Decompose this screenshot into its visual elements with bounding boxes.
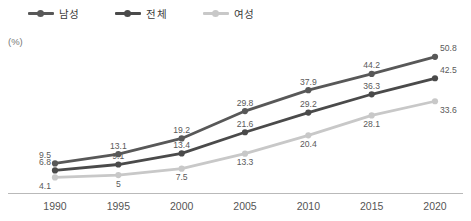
data-point-label: 5 xyxy=(116,179,121,189)
data-point[interactable] xyxy=(369,71,375,77)
data-point-label: 7.5 xyxy=(176,172,188,182)
data-point-label: 19.2 xyxy=(173,125,190,135)
x-axis-tick-1995: 1995 xyxy=(107,200,131,212)
data-point-label: 33.6 xyxy=(440,105,457,115)
data-point[interactable] xyxy=(305,87,311,93)
data-point-label: 13.4 xyxy=(173,140,190,150)
data-point-label: 29.8 xyxy=(237,98,254,108)
data-point-label: 28.1 xyxy=(363,119,380,129)
data-point-label: 42.5 xyxy=(440,65,457,75)
chart-container: 남성 전체 여성 (%) 9.513.119.229.837.944.250.8… xyxy=(0,0,471,221)
data-point-label: 4.1 xyxy=(39,181,51,191)
data-point[interactable] xyxy=(52,167,58,173)
x-axis-tick-2020: 2020 xyxy=(423,200,447,212)
data-point[interactable] xyxy=(369,112,375,118)
data-point-label: 21.6 xyxy=(237,119,254,129)
data-point-label: 13.1 xyxy=(110,141,127,151)
data-point-label: 44.2 xyxy=(363,60,380,70)
data-point[interactable] xyxy=(242,108,248,114)
data-point-label: 9.1 xyxy=(112,151,124,161)
x-axis-tick-2010: 2010 xyxy=(297,200,321,212)
data-point[interactable] xyxy=(242,129,248,135)
data-point-label: 20.4 xyxy=(300,139,317,149)
x-axis-tick-2000: 2000 xyxy=(170,200,194,212)
data-point-label: 13.3 xyxy=(237,157,254,167)
data-point[interactable] xyxy=(52,174,58,180)
x-axis-tick-1990: 1990 xyxy=(43,200,67,212)
data-point[interactable] xyxy=(52,160,58,166)
data-point[interactable] xyxy=(242,151,248,157)
data-point[interactable] xyxy=(115,161,121,167)
data-point-label: 29.2 xyxy=(300,99,317,109)
data-point-label: 37.9 xyxy=(300,77,317,87)
data-point[interactable] xyxy=(369,91,375,97)
x-axis-tick-2005: 2005 xyxy=(233,200,257,212)
data-point[interactable] xyxy=(432,75,438,81)
data-point[interactable] xyxy=(179,150,185,156)
x-axis-tick-2015: 2015 xyxy=(360,200,384,212)
data-point[interactable] xyxy=(432,98,438,104)
data-point[interactable] xyxy=(179,166,185,172)
data-point-label: 36.3 xyxy=(363,81,380,91)
data-point[interactable] xyxy=(115,172,121,178)
data-point[interactable] xyxy=(305,110,311,116)
x-axis-tick-labels: 1990199520002005201020152020 xyxy=(43,200,447,212)
data-point-label: 6.8 xyxy=(39,157,51,167)
chart-plot-area: 9.513.119.229.837.944.250.86.89.113.421.… xyxy=(0,0,471,221)
data-point[interactable] xyxy=(432,54,438,60)
point-labels-layer: 9.513.119.229.837.944.250.86.89.113.421.… xyxy=(39,43,457,191)
data-point[interactable] xyxy=(305,132,311,138)
data-point-label: 50.8 xyxy=(440,43,457,53)
